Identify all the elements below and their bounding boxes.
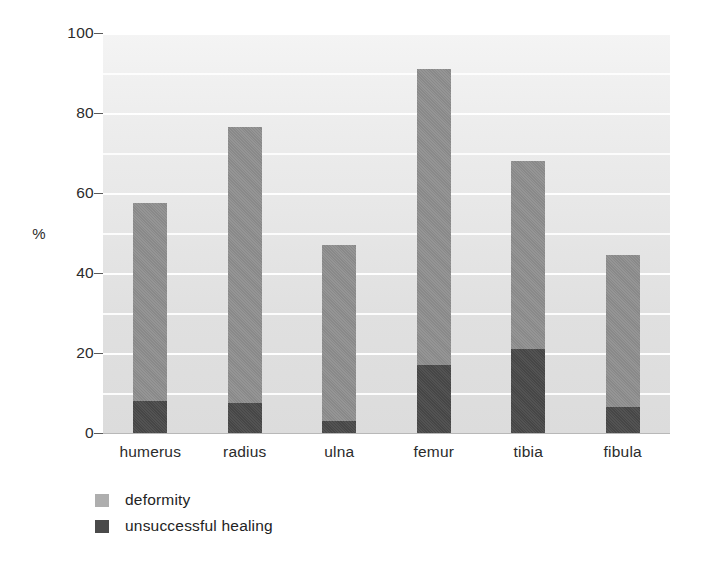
plot-area [103, 33, 670, 433]
legend-item: deformity [95, 487, 455, 513]
y-axis-tick-label: 60 [48, 184, 94, 202]
y-axis-tick-mark [94, 433, 103, 434]
x-axis-label-fibula: fibula [576, 443, 671, 461]
bar-segment-unsuccessful-healing [228, 403, 262, 433]
y-axis-tick-label: 40 [48, 264, 94, 282]
bar-femur [417, 33, 451, 433]
bar-segment-unsuccessful-healing [417, 365, 451, 433]
y-axis-tick-mark [94, 113, 103, 114]
gridline [103, 313, 670, 315]
bar-segment-deformity [417, 69, 451, 365]
y-axis-tick-label: 80 [48, 104, 94, 122]
bar-ulna [322, 33, 356, 433]
gridline [103, 153, 670, 155]
light-gray-swatch [95, 494, 109, 507]
chart-legend: deformityunsuccessful healing [95, 487, 455, 539]
gridline [103, 33, 670, 35]
x-axis-label-humerus: humerus [103, 443, 198, 461]
bar-humerus [133, 33, 167, 433]
y-axis-tick-mark [94, 33, 103, 34]
bar-segment-unsuccessful-healing [322, 421, 356, 433]
gridline [103, 113, 670, 115]
gridline [103, 353, 670, 355]
x-axis-label-femur: femur [387, 443, 482, 461]
y-axis-tick-label: 0 [48, 424, 94, 442]
bar-chart-figure: % 100806040200 humerusradiusulnafemurtib… [0, 0, 706, 565]
y-axis-tick-labels: 100806040200 [42, 0, 94, 565]
bar-radius [228, 33, 262, 433]
y-axis-tick-label: 100 [48, 24, 94, 42]
x-axis-label-radius: radius [198, 443, 293, 461]
y-axis-tick-label: 20 [48, 344, 94, 362]
bar-segment-deformity [228, 127, 262, 403]
bar-segment-unsuccessful-healing [606, 407, 640, 433]
bar-tibia [511, 33, 545, 433]
dark-gray-swatch [95, 520, 109, 533]
legend-label: deformity [125, 491, 191, 509]
gridline [103, 393, 670, 395]
bar-segment-deformity [133, 203, 167, 401]
bar-segment-deformity [511, 161, 545, 349]
y-axis-tick-mark [94, 193, 103, 194]
bar-fibula [606, 33, 640, 433]
gridline [103, 73, 670, 75]
bar-segment-deformity [322, 245, 356, 421]
y-axis-tick-mark [94, 353, 103, 354]
x-axis-baseline [103, 433, 670, 434]
bar-segment-unsuccessful-healing [133, 401, 167, 433]
legend-item: unsuccessful healing [95, 513, 455, 539]
gridline [103, 233, 670, 235]
bar-segment-unsuccessful-healing [511, 349, 545, 433]
x-axis-label-tibia: tibia [481, 443, 576, 461]
gridline [103, 273, 670, 275]
legend-label: unsuccessful healing [125, 517, 273, 535]
x-axis-label-ulna: ulna [292, 443, 387, 461]
bar-segment-deformity [606, 255, 640, 407]
y-axis-tick-mark [94, 273, 103, 274]
gridline [103, 193, 670, 195]
